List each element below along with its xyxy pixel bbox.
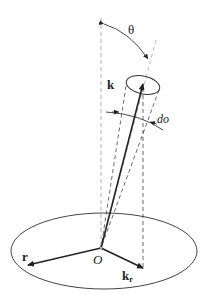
r-vector-arrow: [28, 248, 101, 265]
kr-vector-label: kr: [122, 268, 133, 284]
cone-edge-right: [101, 90, 159, 248]
do-label: do: [157, 112, 169, 126]
diagram-canvas: θ k do r kr O: [0, 0, 204, 299]
theta-label: θ: [128, 22, 134, 37]
origin-point: [100, 247, 103, 250]
k-vector-label: k: [107, 77, 115, 92]
kr-vector-arrow: [101, 248, 143, 268]
base-plane-ellipse: [11, 213, 197, 289]
origin-label: O: [93, 252, 103, 267]
r-vector-label: r: [22, 249, 28, 264]
theta-arc: [104, 24, 148, 59]
k-vector-arrow: [101, 84, 143, 248]
